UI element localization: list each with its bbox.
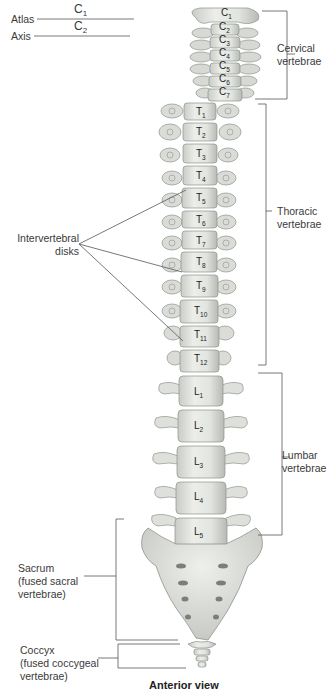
label-sacrum-line3: vertebrae) [18,588,78,601]
label-coccyx: Coccyx (fused coccygeal vertebrae) [20,644,99,683]
label-c2-axis: C2 [74,20,87,37]
label-sacrum-line2: (fused sacral [18,575,78,588]
label-intervertebral-line2: disks [13,245,79,258]
label-cervical-line1: Cervical [277,42,321,55]
label-sacrum-line1: Sacrum [18,562,78,575]
label-lumbar-line1: Lumbar [282,449,326,462]
label-thoracic-line1: Thoracic [277,205,321,218]
label-axis: Axis [11,30,31,43]
label-coccyx-line2: (fused coccygeal [20,657,99,670]
label-c2-letter: C [74,19,83,33]
label-cervical-vertebrae: Cervical vertebrae [277,42,321,68]
label-c1-letter: C [74,2,83,16]
label-sacrum: Sacrum (fused sacral vertebrae) [18,562,78,601]
label-c1-atlas: C1 [74,3,87,20]
label-lumbar-vertebrae: Lumbar vertebrae [282,449,326,475]
label-c2-sub: 2 [83,26,87,35]
label-c1-sub: 1 [83,9,87,18]
label-intervertebral-disks: Intervertebral disks [13,232,79,258]
sacrum-art [142,528,263,640]
label-lumbar-line2: vertebrae [282,462,326,475]
label-thoracic-vertebrae: Thoracic vertebrae [277,205,321,231]
label-intervertebral-line1: Intervertebral [13,232,79,245]
label-coccyx-line1: Coccyx [20,644,99,657]
label-coccyx-line3: vertebrae) [20,670,99,683]
figure-title: Anterior view [149,679,219,691]
label-thoracic-line2: vertebrae [277,218,321,231]
label-atlas: Atlas [11,13,34,26]
label-cervical-line2: vertebrae [277,55,321,68]
coccyx-art [188,641,216,667]
